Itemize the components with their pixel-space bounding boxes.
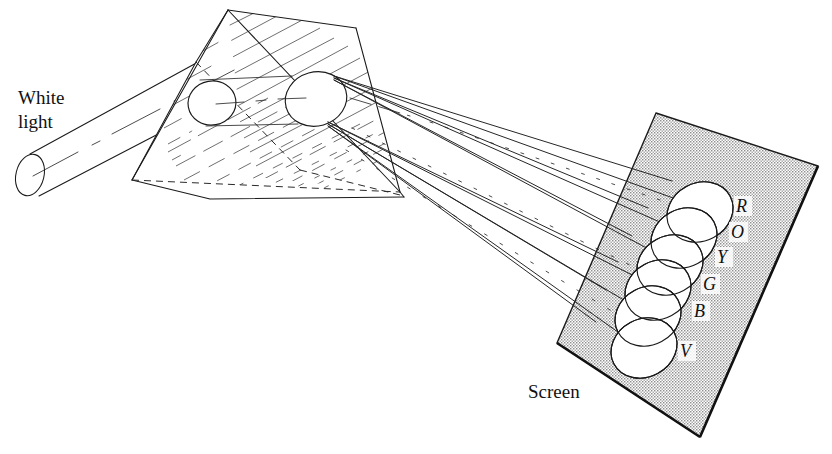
white-light-label-line1: White bbox=[18, 87, 64, 108]
spectrum-label-red: R bbox=[735, 196, 747, 216]
screen-label: Screen bbox=[528, 381, 580, 402]
beam-entry-face bbox=[11, 151, 48, 199]
ray-blue-lower bbox=[328, 124, 654, 318]
spectrum-label-blue: B bbox=[694, 301, 705, 321]
figure-canvas: White light Screen R O Y G B V bbox=[0, 0, 832, 454]
spectrum-label-orange: O bbox=[731, 222, 744, 242]
prism-dispersion-figure: White light Screen R O Y G B V bbox=[0, 0, 832, 454]
white-light-label-line2: light bbox=[18, 111, 54, 132]
spectrum-label-green: G bbox=[703, 274, 716, 294]
